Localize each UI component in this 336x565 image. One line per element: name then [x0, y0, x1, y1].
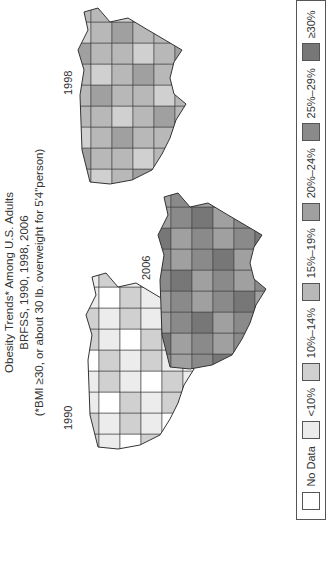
- state-region: [91, 169, 112, 190]
- state-region: [99, 350, 120, 371]
- legend-swatch: [302, 123, 320, 141]
- state-region: [112, 43, 133, 64]
- state-region: [255, 228, 276, 249]
- state-region: [213, 312, 234, 333]
- state-region: [154, 43, 175, 64]
- legend-swatch: [302, 363, 320, 381]
- state-region: [213, 291, 234, 312]
- state-region: [192, 333, 213, 354]
- state-region: [154, 148, 175, 169]
- state-region: [192, 312, 213, 333]
- state-region: [183, 413, 204, 434]
- state-region: [213, 207, 234, 228]
- state-region: [91, 22, 112, 43]
- state-region: [133, 43, 154, 64]
- state-region: [175, 148, 196, 169]
- state-region: [120, 287, 141, 308]
- us-map-1998: [70, 0, 200, 190]
- state-region: [112, 85, 133, 106]
- state-region: [141, 434, 162, 455]
- figure-title: Obesity Trends* Among U.S. Adults BRFSS,…: [2, 0, 47, 565]
- state-region: [255, 312, 276, 333]
- us-map-2006: [150, 185, 280, 375]
- state-region: [141, 392, 162, 413]
- state-region: [99, 392, 120, 413]
- state-region: [91, 148, 112, 169]
- legend-label: ≥30%: [305, 10, 317, 38]
- state-region: [255, 186, 276, 207]
- state-region: [234, 186, 255, 207]
- state-region: [150, 228, 171, 249]
- state-region: [78, 287, 99, 308]
- state-region: [175, 43, 196, 64]
- state-region: [175, 22, 196, 43]
- state-region: [234, 333, 255, 354]
- state-region: [120, 350, 141, 371]
- state-region: [112, 22, 133, 43]
- state-region: [91, 85, 112, 106]
- state-region: [150, 186, 171, 207]
- state-region: [133, 148, 154, 169]
- state-region: [120, 329, 141, 350]
- state-region: [255, 333, 276, 354]
- state-region: [234, 270, 255, 291]
- state-region: [112, 64, 133, 85]
- state-region: [213, 186, 234, 207]
- state-region: [150, 249, 171, 270]
- state-region: [150, 333, 171, 354]
- legend-item-15-19: 15%–19%: [302, 228, 320, 301]
- state-region: [133, 106, 154, 127]
- state-region: [213, 270, 234, 291]
- state-region: [91, 127, 112, 148]
- state-region: [120, 413, 141, 434]
- state-region: [70, 127, 91, 148]
- state-region: [112, 148, 133, 169]
- legend-item-20-24: 20%–24%: [302, 148, 320, 221]
- state-region: [171, 291, 192, 312]
- state-region: [171, 207, 192, 228]
- year-label-1990: 1990: [62, 406, 74, 430]
- state-region: [213, 228, 234, 249]
- state-region: [99, 308, 120, 329]
- state-region: [154, 64, 175, 85]
- state-region: [234, 249, 255, 270]
- legend-label: <10%: [305, 388, 317, 416]
- state-region: [171, 270, 192, 291]
- state-region: [183, 392, 204, 413]
- state-region: [213, 249, 234, 270]
- state-region: [120, 434, 141, 455]
- state-region: [78, 329, 99, 350]
- state-region: [91, 106, 112, 127]
- state-region: [213, 333, 234, 354]
- state-region: [162, 413, 183, 434]
- state-region: [78, 413, 99, 434]
- state-region: [171, 312, 192, 333]
- state-region: [171, 249, 192, 270]
- legend-swatch: [302, 421, 320, 439]
- state-region: [99, 434, 120, 455]
- legend-item-25-29: 25%–29%: [302, 68, 320, 141]
- state-region: [112, 127, 133, 148]
- state-region: [78, 266, 99, 287]
- state-region: [255, 207, 276, 228]
- state-region: [133, 127, 154, 148]
- state-region: [175, 64, 196, 85]
- state-region: [141, 413, 162, 434]
- state-region: [175, 1, 196, 22]
- state-region: [112, 169, 133, 190]
- legend: No Data <10% 10%–14% 15%–19% 20%–24% 25%…: [296, 0, 326, 520]
- legend-item-10-14: 10%–14%: [302, 308, 320, 381]
- state-region: [120, 371, 141, 392]
- state-region: [162, 392, 183, 413]
- state-region: [91, 43, 112, 64]
- state-region: [70, 43, 91, 64]
- state-region: [171, 228, 192, 249]
- state-region: [120, 392, 141, 413]
- state-region: [255, 354, 276, 375]
- legend-swatch: [302, 43, 320, 61]
- state-region: [70, 64, 91, 85]
- state-region: [171, 333, 192, 354]
- state-region: [234, 291, 255, 312]
- legend-item-lt10: <10%: [302, 388, 320, 439]
- state-region: [171, 354, 192, 375]
